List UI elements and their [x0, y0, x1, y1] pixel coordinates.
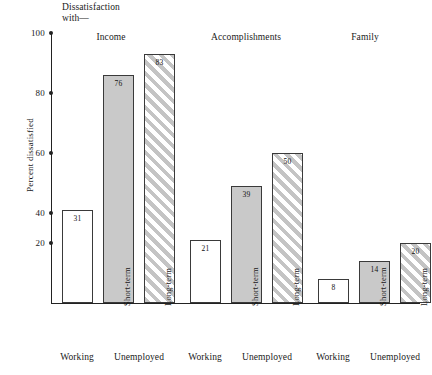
- y-tick-mark-20: [49, 241, 53, 245]
- bar-value: 76: [104, 79, 133, 88]
- y-tick-mark-60: [49, 151, 53, 155]
- bar-value: 50: [273, 157, 302, 166]
- cat-label-family-working: Working: [303, 352, 363, 362]
- sub-label-accomplishments-long-term: Long-term: [291, 246, 301, 306]
- cat-label-income-working: Working: [47, 352, 107, 362]
- group-header-family: Family: [330, 32, 400, 42]
- cat-label-accomplishments-working: Working: [175, 352, 235, 362]
- sub-label-family-long-term: Long-term: [419, 246, 429, 306]
- sub-label-family-short-term: Short-term: [378, 246, 388, 306]
- group-header-income: Income: [76, 32, 146, 42]
- cat-label-accomplishments-unemployed: Unemployed: [232, 352, 302, 362]
- group-header-accomplishments: Accomplishments: [196, 32, 296, 42]
- bar-income-working[interactable]: 31: [62, 210, 93, 303]
- y-tick-mark-80: [49, 91, 53, 95]
- y-tick-mark-100: [49, 31, 53, 35]
- y-tick-label-60: 60: [17, 148, 45, 158]
- y-tick-mark-40: [49, 211, 53, 215]
- bar-value: 21: [191, 244, 220, 253]
- cat-label-family-unemployed: Unemployed: [360, 352, 430, 362]
- bar-chart: Dissatisfaction with— Percent dissatisfi…: [0, 0, 432, 375]
- bar-value: 8: [319, 283, 348, 292]
- y-tick-label-40: 40: [17, 208, 45, 218]
- cat-label-income-unemployed: Unemployed: [104, 352, 174, 362]
- sub-label-income-long-term: Long-term: [163, 246, 173, 306]
- x-axis-line: [51, 303, 420, 304]
- y-tick-label-20: 20: [17, 238, 45, 248]
- chart-caption: Dissatisfaction with—: [62, 2, 120, 24]
- bar-value: 39: [232, 190, 261, 199]
- y-tick-label-80: 80: [17, 88, 45, 98]
- bar-value: 83: [145, 58, 174, 67]
- bar-value: 31: [63, 214, 92, 223]
- sub-label-accomplishments-short-term: Short-term: [250, 246, 260, 306]
- bar-accomplishments-working[interactable]: 21: [190, 240, 221, 303]
- y-axis-line: [51, 33, 52, 303]
- sub-label-income-short-term: Short-term: [122, 246, 132, 306]
- bar-family-working[interactable]: 8: [318, 279, 349, 303]
- y-tick-label-100: 100: [17, 28, 45, 38]
